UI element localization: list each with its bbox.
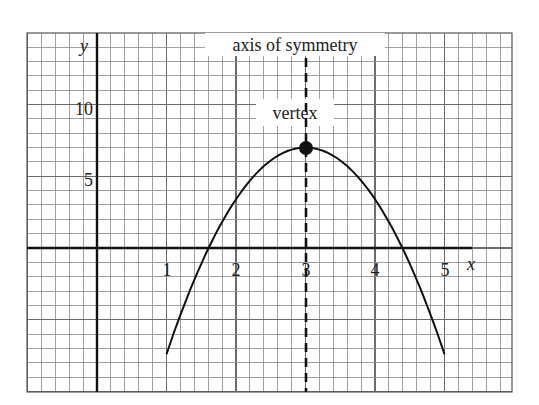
- y-tick-5: 5: [84, 170, 93, 190]
- vertex-label: vertex: [273, 103, 318, 123]
- x-axis-label: x: [466, 254, 475, 274]
- axis-of-symmetry-label: axis of symmetry: [233, 35, 358, 55]
- parabola-chart: axis of symmetry vertex y x 10 5 1 2 3 4…: [0, 0, 539, 405]
- y-tick-10: 10: [75, 99, 93, 119]
- vertex-point: [299, 141, 313, 155]
- x-tick-4: 4: [371, 260, 380, 280]
- x-tick-3: 3: [302, 260, 311, 280]
- x-tick-1: 1: [163, 260, 172, 280]
- x-tick-5: 5: [441, 260, 450, 280]
- y-axis-label: y: [78, 36, 88, 56]
- x-tick-2: 2: [232, 260, 241, 280]
